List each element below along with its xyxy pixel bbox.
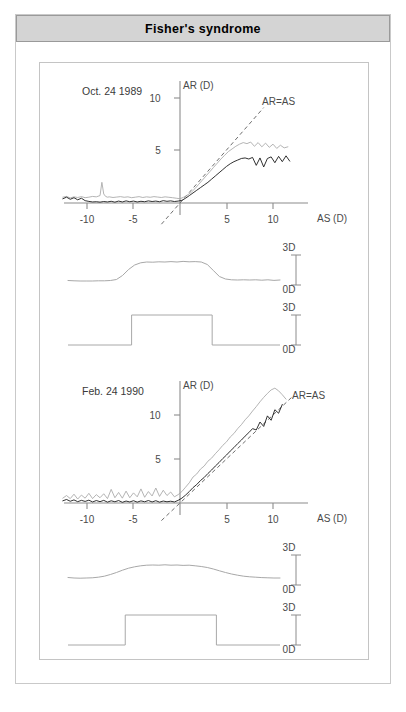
identity-line-label-2: AR=AS <box>292 390 325 401</box>
scale-label-top-2: 3D <box>283 542 296 553</box>
response-trace-black-2 <box>63 404 282 502</box>
response-time-trace-1: 3D 0D <box>40 241 370 299</box>
panel-group-1: Oct. 24 1989 AR (D) AS (D) AR=AS 10 5 -1… <box>40 63 370 363</box>
identity-line-1 <box>161 108 263 225</box>
x-ticklabel-10-1: 10 <box>267 214 279 225</box>
x-ticklabel-neg10-2: -10 <box>80 514 95 525</box>
response-trace-gray-2 <box>63 388 286 499</box>
y-ticklabel-5-1: 5 <box>155 145 161 156</box>
y-ticklabel-10-1: 10 <box>149 93 161 104</box>
response-time-trace-2: 3D 0D <box>40 541 370 599</box>
scale-label-bottom-s1: 0D <box>283 344 296 355</box>
x-ticklabel-neg10-1: -10 <box>80 214 95 225</box>
x-ticklabel-5-1: 5 <box>224 214 230 225</box>
y-axis-label-1: AR (D) <box>183 80 214 91</box>
page-title: Fisher's syndrome <box>145 22 261 36</box>
panel-group-2: Feb. 24 1990 AR (D) AS (D) AR=AS 10 5 -1… <box>40 363 370 661</box>
figure-title-bar: Fisher's syndrome <box>16 15 390 42</box>
x-ticklabel-10-2: 10 <box>267 514 279 525</box>
x-axis-label-1: AS (D) <box>317 213 347 224</box>
y-ticklabel-5-2: 5 <box>155 454 161 465</box>
stimulus-waveform-2 <box>68 615 280 645</box>
identity-line-label-1: AR=AS <box>262 96 295 107</box>
x-ticklabel-neg5-1: -5 <box>129 214 138 225</box>
scatter-plot-2: Feb. 24 1990 AR (D) AS (D) AR=AS 10 5 -1… <box>40 363 370 553</box>
y-axis-label-2: AR (D) <box>183 380 214 391</box>
date-label-1: Oct. 24 1989 <box>82 85 142 97</box>
scale-label-top-s2: 3D <box>283 602 296 613</box>
stimulus-trace-2: 3D 0D <box>40 599 370 659</box>
figure-panel: Oct. 24 1989 AR (D) AS (D) AR=AS 10 5 -1… <box>39 62 369 660</box>
y-ticklabel-10-2: 10 <box>149 410 161 421</box>
stimulus-trace-1: 3D 0D <box>40 299 370 359</box>
scale-label-bottom-1: 0D <box>283 284 296 295</box>
response-waveform-1 <box>68 261 280 281</box>
scale-label-top-1: 3D <box>283 242 296 253</box>
date-label-2: Feb. 24 1990 <box>82 385 144 397</box>
x-axis-label-2: AS (D) <box>317 513 347 524</box>
response-trace-gray-1 <box>63 142 288 199</box>
scale-label-bottom-s2: 0D <box>283 644 296 655</box>
response-trace-black-1 <box>63 156 290 202</box>
scatter-plot-1: Oct. 24 1989 AR (D) AS (D) AR=AS 10 5 -1… <box>40 63 370 253</box>
x-ticklabel-5-2: 5 <box>224 514 230 525</box>
response-waveform-2 <box>68 565 280 578</box>
stimulus-waveform-1 <box>68 315 280 345</box>
identity-line-2 <box>161 397 291 520</box>
x-ticklabel-neg5-2: -5 <box>129 514 138 525</box>
scale-label-top-s1: 3D <box>283 302 296 313</box>
scale-label-bottom-2: 0D <box>283 584 296 595</box>
